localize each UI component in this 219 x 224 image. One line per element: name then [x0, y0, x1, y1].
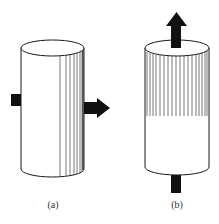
cylinder-a-shadow-edge: [82, 49, 84, 170]
panel-a-label: (a): [38, 199, 68, 210]
arrow-tail-bottom: [171, 175, 181, 193]
panel-b: [145, 12, 209, 193]
cylinder-a-top: [21, 40, 84, 56]
arrow-right-icon: [84, 98, 110, 118]
arrow-tail-left: [11, 94, 22, 106]
cylinder-diagram: [0, 0, 219, 224]
panel-a: [11, 40, 110, 177]
panel-b-label: (b): [162, 199, 192, 210]
cylinder-a-body: [21, 48, 84, 177]
